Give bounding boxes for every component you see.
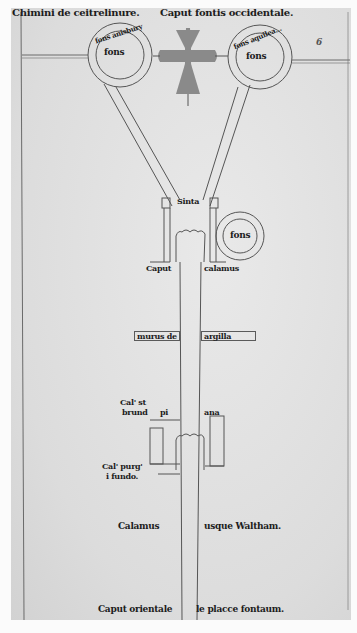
- cross-pattee: [158, 28, 217, 94]
- header-center: Caput fontis occidentale.: [160, 8, 293, 18]
- junction-label: Sinta: [177, 197, 199, 205]
- channel-caption-right: usque Waltham.: [204, 522, 281, 531]
- junction-caption-left: Caput: [146, 264, 171, 272]
- side-fountain-fons: fons: [230, 231, 250, 240]
- basin-label-left-bottom: brund: [122, 408, 148, 416]
- left-margin-line: [21, 12, 24, 620]
- left-ring-fons: fons: [104, 48, 124, 57]
- outlet-upper: [176, 230, 205, 262]
- basin-label-left-top: Cal' st: [120, 398, 146, 406]
- folio-number: 6: [316, 38, 322, 47]
- lower-basin: [150, 416, 224, 474]
- footer-left: Caput orientale: [98, 605, 172, 614]
- footer-right: le placce fontaum.: [196, 605, 284, 614]
- basin-label-mid: pi: [160, 408, 168, 416]
- channel-caption-left: Calamus: [118, 522, 159, 531]
- header-left: Chimini de ceitrelinure.: [12, 8, 139, 18]
- converging-channels: [104, 84, 250, 206]
- junction-caption-right: calamus: [204, 264, 239, 272]
- waterworks-diagram: [0, 0, 357, 633]
- outlet-lower: [176, 434, 204, 470]
- purge-label-line2: i fundo.: [106, 472, 138, 480]
- right-ring-fons: fons: [246, 52, 266, 61]
- basin-label-right: ana: [204, 408, 219, 416]
- purge-label-line1: Cal' purg': [102, 462, 143, 470]
- main-conduit: [180, 262, 201, 620]
- wall-label-left: murus de: [134, 331, 180, 341]
- wall-label-right: argilla: [201, 331, 256, 341]
